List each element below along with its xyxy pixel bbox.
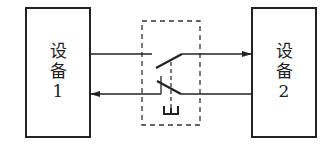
- device-1-label-line1: 设: [26, 41, 90, 61]
- device-1-label: 设 备 1: [26, 41, 90, 101]
- device-1-label-line2: 备: [26, 61, 90, 81]
- device-1-label-line3: 1: [26, 81, 90, 101]
- upper-switch-blade: [156, 54, 182, 68]
- device-2-label: 设 备 2: [252, 41, 316, 101]
- device-2-label-line1: 设: [252, 41, 316, 61]
- device-2-label-line3: 2: [252, 81, 316, 101]
- device-2-label-line2: 备: [252, 61, 316, 81]
